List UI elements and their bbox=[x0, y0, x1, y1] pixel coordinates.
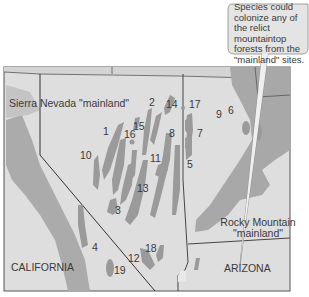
site-7: 7 bbox=[197, 128, 203, 139]
arizona-label: ARIZONA bbox=[224, 263, 271, 274]
site-8: 8 bbox=[169, 128, 175, 139]
site-9: 9 bbox=[216, 109, 222, 120]
sierra-nevada-label: Sierra Nevada "mainland" bbox=[9, 98, 129, 109]
site-5: 5 bbox=[187, 159, 193, 170]
site-19: 19 bbox=[114, 265, 126, 276]
site-4: 4 bbox=[92, 242, 98, 253]
site-11: 11 bbox=[150, 153, 161, 164]
site-2: 2 bbox=[149, 97, 155, 108]
callout-text: Species could colonize any of the relict… bbox=[234, 2, 308, 66]
california-label: CALIFORNIA bbox=[11, 262, 74, 273]
rocky-mountain-line2: "mainland" bbox=[213, 228, 303, 239]
rocky-mountain-label: Rocky Mountain "mainland" bbox=[213, 217, 303, 239]
site-18: 18 bbox=[145, 243, 157, 254]
site-3: 3 bbox=[115, 205, 121, 216]
site-10: 10 bbox=[80, 150, 92, 161]
site-16: 16 bbox=[124, 129, 136, 140]
site-14: 14 bbox=[166, 99, 178, 110]
site-12: 12 bbox=[128, 253, 140, 264]
site-1: 1 bbox=[103, 126, 109, 137]
site-17: 17 bbox=[189, 99, 201, 110]
site-13: 13 bbox=[137, 183, 149, 194]
site-6: 6 bbox=[228, 105, 234, 116]
